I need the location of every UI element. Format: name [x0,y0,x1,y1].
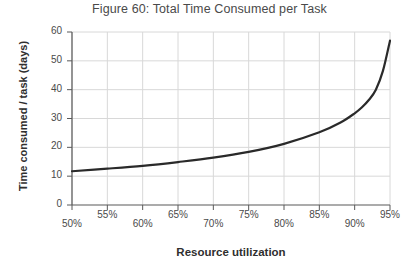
y-tick-label: 50 [38,54,62,65]
x-tick-label: 65% [161,209,195,220]
x-tick-label: 85% [302,209,336,220]
x-tick-label: 90% [338,218,372,229]
y-tick-label: 60 [38,25,62,36]
x-tick-label: 60% [126,218,160,229]
x-tick-label: 75% [232,209,266,220]
y-tick-label: 30 [38,112,62,123]
data-line [72,41,390,172]
y-tick-label: 20 [38,140,62,151]
x-tick-label: 80% [267,218,301,229]
data-series-group [72,41,390,172]
figure-container: Figure 60: Total Time Consumed per Task … [0,0,419,271]
x-tick-label: 70% [196,218,230,229]
x-tick-label: 50% [55,218,89,229]
y-tick-label: 40 [38,83,62,94]
y-tick-label: 0 [38,198,62,209]
x-tick-label: 55% [90,209,124,220]
plot-area [0,0,419,271]
gridlines [72,32,390,205]
x-tick-label: 95% [373,209,407,220]
y-tick-label: 10 [38,169,62,180]
